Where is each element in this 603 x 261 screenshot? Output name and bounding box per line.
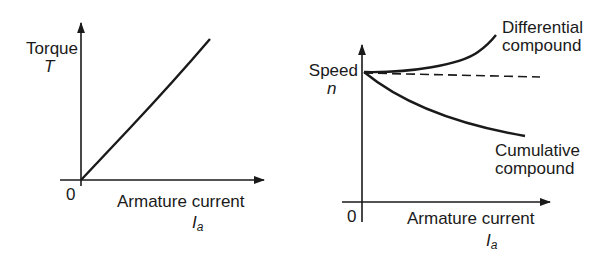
torque-x-label: Armature current (117, 192, 245, 211)
differential-label-line1: Differential (502, 18, 583, 37)
speed-y-symbol: n (327, 79, 336, 98)
cumulative-label-line2: compound (495, 159, 574, 178)
differential-compound-curve (364, 35, 496, 72)
cumulative-label-line1: Cumulative (495, 141, 580, 160)
torque-origin-label: 0 (66, 185, 75, 204)
torque-y-symbol: T (44, 57, 56, 76)
speed-origin-label: 0 (347, 207, 356, 226)
torque-y-label: Torque (26, 39, 78, 58)
speed-x-label: Armature current (407, 209, 535, 228)
speed-y-label: Speed (309, 61, 358, 80)
constant-speed-dashed-line (364, 73, 540, 77)
cumulative-compound-curve (364, 72, 525, 136)
speed-graph: Speed n 0 Armature current Ia Differenti… (309, 18, 583, 252)
torque-graph: Torque T 0 Armature current Ia (26, 23, 264, 234)
torque-curve (81, 39, 210, 180)
speed-x-symbol: Ia (486, 231, 498, 252)
differential-label-line2: compound (502, 36, 581, 55)
torque-x-symbol: Ia (192, 213, 204, 234)
motor-characteristics-diagram: Torque T 0 Armature current Ia Speed n 0… (0, 0, 603, 261)
